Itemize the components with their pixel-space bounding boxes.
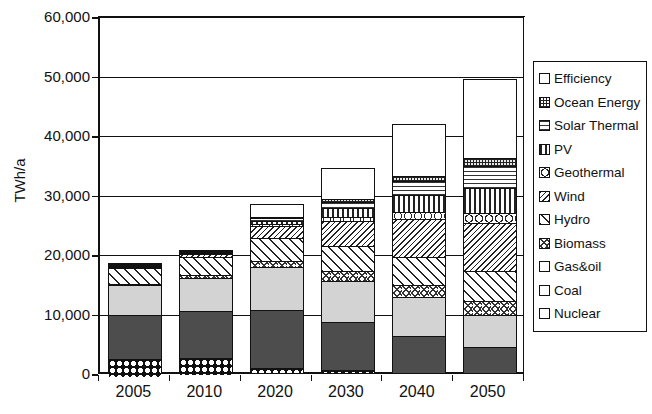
bar-segment-pv [393, 196, 445, 213]
bar-2040 [392, 124, 446, 372]
bar-segment-pv [322, 209, 374, 218]
legend-item-gas-oil[interactable]: Gas&oil [539, 255, 642, 279]
legend: EfficiencyOcean EnergySolar ThermalPVGeo… [533, 61, 647, 332]
y-tick-mark [92, 136, 98, 138]
gridline [100, 255, 523, 256]
bar-segment-nuclear [180, 359, 232, 375]
bar-segment-nuclear [109, 360, 161, 377]
legend-item-solar-thermal[interactable]: Solar Thermal [539, 114, 642, 138]
legend-swatch-solarthermal-icon [539, 120, 550, 131]
legend-item-nuclear[interactable]: Nuclear [539, 302, 642, 326]
gridline [100, 17, 523, 18]
bar-segment-biomass [393, 286, 445, 298]
bar-segment-gas-oil [322, 282, 374, 323]
bar-segment-hydro [251, 239, 303, 262]
bar-segment-coal [464, 348, 516, 373]
y-tick-mark [92, 196, 98, 198]
bar-2010 [179, 250, 233, 372]
legend-item-ocean-energy[interactable]: Ocean Energy [539, 91, 642, 115]
bar-segment-biomass [322, 272, 374, 282]
y-tick-label: 10,000 [12, 306, 90, 323]
y-tick-mark [92, 315, 98, 317]
y-tick-mark [92, 17, 98, 19]
bar-2050 [463, 79, 517, 372]
y-tick-mark [92, 255, 98, 257]
bar-segment-geothermal [393, 213, 445, 220]
bar-segment-pv [464, 189, 516, 214]
legend-swatch-nuclear-icon [539, 308, 550, 319]
y-tick-label: 50,000 [12, 68, 90, 85]
x-tick-mark [381, 375, 382, 381]
legend-label: Ocean Energy [554, 96, 640, 110]
legend-item-coal[interactable]: Coal [539, 279, 642, 303]
legend-item-wind[interactable]: Wind [539, 185, 642, 209]
bar-2030 [321, 168, 375, 372]
bar-segment-geothermal [464, 214, 516, 224]
y-tick-label: 0 [12, 365, 90, 382]
bar-segment-hydro [180, 258, 232, 276]
y-tick-label: 20,000 [12, 246, 90, 263]
bar-segment-hydro [393, 258, 445, 286]
bar-segment-wind [464, 224, 516, 273]
gridline [100, 77, 523, 78]
stacked-bar-chart: TWh/a 60,00050,00040,00030,00020,00010,0… [0, 0, 652, 414]
bar-segment-solar-thermal [393, 182, 445, 196]
legend-item-hydro[interactable]: Hydro [539, 208, 642, 232]
legend-swatch-gasoil-icon [539, 261, 550, 272]
legend-label: Wind [554, 190, 585, 204]
x-tick-mark [240, 375, 241, 381]
x-tick-label-2020: 2020 [240, 383, 310, 401]
x-tick-label-2010: 2010 [169, 383, 239, 401]
x-tick-mark [311, 375, 312, 381]
x-tick-label-2030: 2030 [311, 383, 381, 401]
y-tick-label: 30,000 [12, 187, 90, 204]
gridline [100, 136, 523, 137]
x-tick-label-2005: 2005 [98, 383, 168, 401]
legend-item-geothermal[interactable]: Geothermal [539, 161, 642, 185]
legend-swatch-geothermal-icon [539, 167, 550, 178]
legend-swatch-pv-icon [539, 144, 550, 155]
legend-item-biomass[interactable]: Biomass [539, 232, 642, 256]
y-axis-title: TWh/a [11, 136, 28, 226]
bar-segment-coal [251, 311, 303, 369]
bar-segment-efficiency [393, 125, 445, 177]
gridline [100, 315, 523, 316]
legend-label: PV [554, 143, 572, 157]
legend-label: Efficiency [554, 72, 612, 86]
legend-swatch-efficiency-icon [539, 73, 550, 84]
legend-swatch-biomass-icon [539, 238, 550, 249]
bar-segment-solar-thermal [464, 167, 516, 188]
bar-2020 [250, 204, 304, 372]
x-tick-mark [98, 375, 99, 381]
legend-label: Nuclear [554, 307, 601, 321]
x-tick-label-2050: 2050 [453, 383, 523, 401]
bar-segment-gas-oil [251, 268, 303, 311]
legend-label: Gas&oil [554, 260, 601, 274]
bar-segment-nuclear [322, 371, 374, 372]
y-tick-label: 60,000 [12, 8, 90, 25]
bar-segment-wind [393, 220, 445, 258]
bar-segment-coal [322, 323, 374, 372]
bar-segment-wind [322, 222, 374, 246]
bar-segment-hydro [322, 247, 374, 273]
legend-item-pv[interactable]: PV [539, 138, 642, 162]
legend-label: Hydro [554, 213, 590, 227]
bar-segment-coal [109, 316, 161, 361]
bar-segment-efficiency [464, 80, 516, 159]
bar-segment-biomass [464, 302, 516, 316]
bar-segment-gas-oil [180, 279, 232, 312]
legend-label: Coal [554, 284, 582, 298]
bar-segment-gas-oil [464, 316, 516, 348]
legend-item-efficiency[interactable]: Efficiency [539, 67, 642, 91]
bar-segment-hydro [109, 269, 161, 286]
bar-segment-coal [393, 337, 445, 373]
plot-area [98, 17, 523, 374]
x-tick-mark [169, 375, 170, 381]
legend-label: Solar Thermal [554, 119, 639, 133]
bar-segment-gas-oil [393, 298, 445, 337]
y-tick-label: 40,000 [12, 127, 90, 144]
x-tick-label-2040: 2040 [382, 383, 452, 401]
plot-border-right [523, 16, 524, 375]
bar-segment-efficiency [322, 169, 374, 200]
bar-segment-gas-oil [109, 286, 161, 315]
